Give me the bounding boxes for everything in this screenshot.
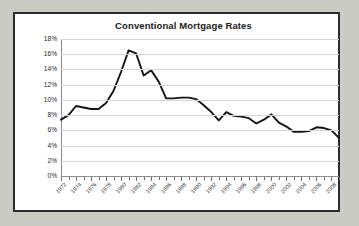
x-tick-1999: [264, 177, 265, 180]
gridline-12%: [61, 85, 339, 86]
x-tick-1982: [136, 177, 137, 181]
gridline-0%: [61, 176, 339, 177]
y-tick-label-16%: 16%: [31, 51, 57, 58]
x-tick-1977: [99, 177, 100, 180]
x-tick-1975: [84, 177, 85, 180]
x-tick-1987: [174, 177, 175, 180]
x-tick-1978: [106, 177, 107, 181]
x-tick-1973: [69, 177, 70, 180]
gridline-2%: [61, 161, 339, 162]
x-tick-1980: [121, 177, 122, 181]
x-tick-1983: [144, 177, 145, 180]
x-tick-1997: [249, 177, 250, 180]
x-tick-1984: [151, 177, 152, 181]
y-tick-label-8%: 8%: [31, 112, 57, 119]
gridline-4%: [61, 146, 339, 147]
gridline-6%: [61, 130, 339, 131]
gridline-14%: [61, 69, 339, 70]
y-tick-label-6%: 6%: [31, 127, 57, 134]
y-tick-label-14%: 14%: [31, 66, 57, 73]
x-tick-1991: [204, 177, 205, 180]
y-tick-label-4%: 4%: [31, 143, 57, 150]
x-tick-1989: [189, 177, 190, 180]
x-tick-1986: [166, 177, 167, 181]
gridline-18%: [61, 39, 339, 40]
x-tick-1974: [76, 177, 77, 181]
screenshot-root: Conventional Mortgage Rates 0%2%4%6%8%10…: [0, 0, 359, 226]
x-tick-2001: [279, 177, 280, 180]
chart-frame: Conventional Mortgage Rates 0%2%4%6%8%10…: [13, 12, 340, 212]
x-tick-1993: [219, 177, 220, 180]
x-tick-1985: [159, 177, 160, 180]
gridline-8%: [61, 115, 339, 116]
x-tick-1972: [61, 177, 62, 181]
x-tick-1996: [241, 177, 242, 181]
x-tick-2009: [339, 177, 340, 180]
x-tick-1990: [196, 177, 197, 181]
plot-area: [61, 39, 339, 176]
x-tick-2005: [309, 177, 310, 180]
gridline-16%: [61, 54, 339, 55]
x-tick-2007: [324, 177, 325, 180]
x-tick-1995: [234, 177, 235, 180]
x-tick-1981: [129, 177, 130, 180]
x-tick-1998: [256, 177, 257, 181]
y-tick-label-0%: 0%: [31, 173, 57, 180]
series-line-chart: [61, 39, 339, 176]
y-tick-label-2%: 2%: [31, 158, 57, 165]
x-tick-1994: [226, 177, 227, 181]
y-tick-label-10%: 10%: [31, 97, 57, 104]
x-tick-2003: [294, 177, 295, 180]
gridline-10%: [61, 100, 339, 101]
y-tick-label-18%: 18%: [31, 36, 57, 43]
x-tick-1992: [211, 177, 212, 181]
x-tick-1976: [91, 177, 92, 181]
series-line-conventional-mortgage-rate: [61, 50, 339, 138]
x-tick-1988: [181, 177, 182, 181]
x-tick-1979: [114, 177, 115, 180]
y-tick-label-12%: 12%: [31, 82, 57, 89]
